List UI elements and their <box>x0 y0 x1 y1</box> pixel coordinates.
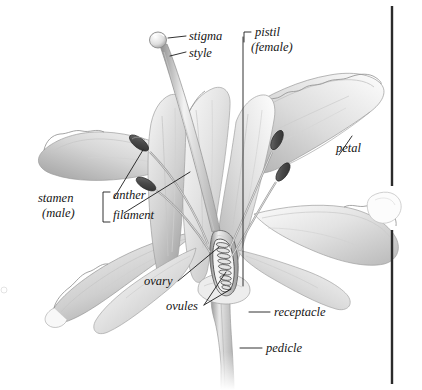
label-pistil: pistil <box>254 25 281 39</box>
label-ovules: ovules <box>166 299 198 313</box>
flower-anatomy-figure: stigma style pistil (female) petal stame… <box>0 0 422 390</box>
label-style: style <box>189 46 212 60</box>
label-filament: filament <box>113 208 154 222</box>
label-stamen-male: (male) <box>42 206 75 220</box>
label-anther: anther <box>113 188 146 202</box>
label-stigma: stigma <box>189 29 222 43</box>
label-pistil-female: (female) <box>251 40 293 54</box>
label-petal: petal <box>335 141 362 155</box>
label-receptacle: receptacle <box>274 305 326 319</box>
label-ovary: ovary <box>144 274 173 288</box>
stigma-knob <box>150 32 167 48</box>
label-pedicle: pedicle <box>265 341 303 355</box>
label-stamen: stamen <box>38 191 73 205</box>
